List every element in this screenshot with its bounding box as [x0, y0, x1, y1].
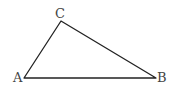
vertex-label-a: A	[12, 70, 23, 85]
vertex-label-b: B	[157, 70, 167, 85]
vertex-label-c: C	[55, 6, 65, 21]
triangle-diagram: A B C	[0, 0, 176, 95]
triangle-abc	[24, 21, 156, 78]
